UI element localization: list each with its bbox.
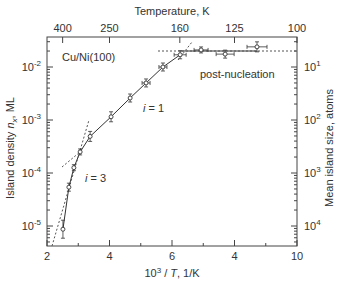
annotation-i3: i = 3 [85,172,106,184]
chart: 24641040025016012510010-210-310-410-5101… [0,0,341,286]
top-tick-label: 400 [53,22,71,34]
x-tick-label: 4 [231,250,237,262]
right-tick-label: 104 [304,218,321,232]
top-tick-label: 100 [288,22,306,34]
top-tick-label: 250 [100,22,118,34]
annotation-post-nucleation: post-nucleation [200,68,275,80]
data-point [88,131,92,141]
top-tick-label: 160 [171,22,189,34]
data-point [247,42,267,52]
top-axis-title: Temperature, K [134,5,210,17]
x-axis-title: 103 / T, 1/K [144,266,200,279]
material-label: Cu/Ni(100) [62,51,115,63]
y-tick-label: 10-3 [22,112,42,126]
x-tick-label: 4 [106,250,112,262]
x-tick-label: 2 [44,250,50,262]
data-point [61,220,65,238]
x-tick-label: 6 [169,250,175,262]
data-point [109,112,113,122]
annotation-i1: i = 1 [143,102,164,114]
right-tick-label: 102 [304,112,321,126]
data-point [194,47,208,53]
y-tick-label: 10-5 [22,218,42,232]
y-tick-label: 10-2 [22,59,42,73]
data-point [128,94,132,102]
right-axis-title: Mean island size, atoms [323,89,335,207]
y-tick-label: 10-4 [22,165,42,179]
top-tick-label: 125 [225,22,243,34]
x-tick-label: 10 [291,250,303,262]
right-tick-label: 101 [304,59,321,73]
data-point [72,165,76,171]
right-tick-label: 103 [304,165,321,179]
y-axis-title: Island density nx, ML [4,97,19,199]
